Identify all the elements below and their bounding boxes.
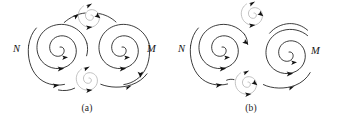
panel-b-right-label-m: M <box>311 45 320 56</box>
arrowhead <box>120 67 127 72</box>
arrowhead <box>58 67 65 72</box>
panel-a-top-connector-left <box>64 13 85 23</box>
panel-b-lower-left-stub <box>227 79 234 80</box>
panel-a-caption: (a) <box>75 103 99 113</box>
vortex-pair-figure: N M N M (a) (b) <box>0 0 338 126</box>
panel-a-left-main-spiral <box>37 24 87 71</box>
panel-b-left-separatrix <box>191 28 199 46</box>
panel-a-upper-small-spiral <box>78 4 100 30</box>
arrowhead <box>83 67 90 72</box>
arrowhead <box>86 4 92 9</box>
arrowhead <box>287 72 294 77</box>
panel-b-bottom-right-stream <box>263 73 310 88</box>
panel-b-lower-small-spiral <box>235 71 257 97</box>
arrowhead <box>124 55 130 60</box>
arrowhead <box>249 24 255 28</box>
arrowhead <box>53 83 60 88</box>
arrowhead <box>86 26 92 30</box>
arrowhead <box>249 2 255 7</box>
arrowhead <box>62 55 68 60</box>
panel-a-right-label-m: M <box>147 43 156 54</box>
panel-b-upper-small-spiral <box>241 2 263 28</box>
arrowhead <box>224 55 230 60</box>
panel-b-right-main-spiral <box>266 29 308 76</box>
panel-a-right-outer-loop <box>124 43 150 84</box>
panel-b-caption: (b) <box>239 103 263 113</box>
panel-a-left-outer-tail <box>87 43 88 56</box>
arrowhead <box>216 83 223 88</box>
panel-b-left-label-n: N <box>178 43 185 54</box>
arrowhead <box>220 67 227 72</box>
panel-a-right-main-spiral <box>99 24 149 71</box>
panel-a-left-label-n: N <box>13 43 20 54</box>
arrowhead <box>243 71 249 76</box>
panel-a-lower-small-spiral <box>76 67 97 93</box>
panel-a-bottom-left-stream <box>58 88 74 90</box>
panel-a-top-connector-right <box>98 13 116 22</box>
arrowhead <box>291 60 297 65</box>
panel-a-graphics <box>28 4 149 93</box>
figure-canvas <box>0 0 338 126</box>
panel-a-left-separatrix <box>29 28 37 46</box>
panel-b-graphics <box>190 2 310 97</box>
panel-b-left-main-spiral <box>199 24 244 71</box>
